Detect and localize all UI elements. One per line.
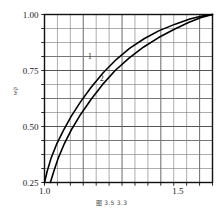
- x-tick-label: 1.0: [39, 186, 51, 196]
- x-tick-label: 1.5: [172, 186, 184, 196]
- y-tick-label: 1.00: [23, 10, 39, 20]
- y-tick-label: 0.50: [23, 122, 39, 132]
- y-tick-label: 0.75: [23, 66, 39, 76]
- figure-caption: 图 3.5 3.3: [0, 198, 223, 207]
- minor-gridlines: [45, 15, 213, 183]
- y-axis-tick-labels: 0.250.500.751.00: [23, 10, 39, 188]
- curve-label-1: 1: [88, 52, 92, 61]
- curve-label-2: 2: [100, 74, 104, 83]
- figure-container: w/p 12 1.01.5 0.250.500.751.00 图 3.5 3.3: [0, 0, 223, 212]
- y-tick-label: 0.25: [23, 178, 39, 188]
- chart-plot: 12 1.01.5 0.250.500.751.00: [0, 0, 223, 212]
- x-axis-tick-labels: 1.01.5: [39, 186, 184, 196]
